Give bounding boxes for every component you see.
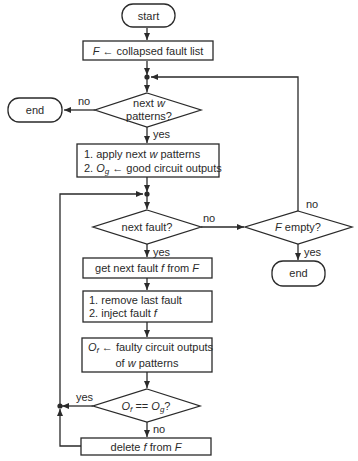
inject-fault-box: 1. remove last fault 2. inject fault f	[83, 291, 212, 322]
delete-label: delete f from F	[111, 441, 183, 453]
end-right-label: end	[289, 267, 307, 279]
inject-line1: 1. remove last fault	[89, 294, 182, 306]
apply-line2: 2. Og ← good circuit outputs	[84, 162, 222, 176]
end-terminal-right: end	[272, 261, 325, 286]
inject-line2: 2. inject fault f	[89, 307, 158, 319]
next-w-line1: next w	[133, 97, 166, 109]
label-next-fault-yes: yes	[153, 246, 171, 258]
next-fault-decision: next fault?	[93, 210, 201, 244]
apply-patterns-box: 1. apply next w patterns 2. Og ← good ci…	[77, 144, 222, 177]
next-w-line2: patterns?	[126, 110, 172, 122]
label-compare-yes: yes	[76, 391, 94, 403]
label-next-w-no: no	[78, 95, 90, 107]
fault-simulation-flowchart: start F ← collapsed fault list next w pa…	[0, 0, 358, 461]
label-f-empty-yes: yes	[304, 246, 322, 258]
end-left-label: end	[26, 104, 44, 116]
junction-dot	[144, 191, 149, 196]
init-process-box: F ← collapsed fault list	[83, 41, 213, 60]
label-f-empty-no: no	[306, 198, 318, 210]
label-compare-no: no	[153, 423, 165, 435]
label-next-fault-no: no	[203, 212, 215, 224]
junction-dot	[57, 403, 62, 408]
end-terminal-left: end	[8, 98, 62, 122]
label-next-w-yes: yes	[153, 128, 171, 140]
edge-delete-loop	[60, 409, 81, 446]
junction-dot	[144, 74, 149, 79]
faulty-line1: Of ← faulty circuit outputs	[88, 341, 214, 355]
faulty-outputs-box: Of ← faulty circuit outputs of w pattern…	[82, 338, 214, 372]
f-empty-decision: F empty?	[245, 211, 352, 244]
start-label: start	[138, 10, 159, 22]
next-fault-label: next fault?	[122, 221, 173, 233]
apply-line1: 1. apply next w patterns	[84, 148, 201, 160]
get-next-fault-box: get next fault f from F	[83, 258, 212, 278]
delete-fault-box: delete f from F	[81, 438, 211, 455]
get-next-fault-label: get next fault f from F	[95, 262, 200, 274]
init-label: F ← collapsed fault list	[93, 45, 204, 57]
compare-outputs-decision: Of == Og?	[93, 389, 200, 422]
start-terminal: start	[122, 4, 175, 27]
next-w-patterns-decision: next w patterns?	[95, 93, 201, 127]
faulty-line2: of w patterns	[116, 357, 179, 369]
f-empty-label: F empty?	[275, 221, 321, 233]
